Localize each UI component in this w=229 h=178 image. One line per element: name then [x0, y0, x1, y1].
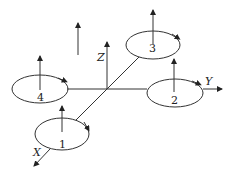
quadrotor-diagram: 3 4 2 1 Z Y X	[0, 0, 229, 178]
x-axis-label: X	[32, 146, 42, 159]
y-axis-label: Y	[205, 75, 214, 88]
rotor-4-label: 4	[37, 91, 44, 104]
rotor-2-label: 2	[171, 94, 178, 107]
rotor-3-label: 3	[149, 42, 156, 55]
arm-to-rotor-3	[107, 57, 139, 89]
diagram-svg: 3 4 2 1 Z Y X	[0, 0, 229, 178]
rotor-1-label: 1	[59, 138, 66, 151]
arm-to-rotor-1	[76, 89, 107, 120]
z-axis-label: Z	[96, 51, 105, 64]
